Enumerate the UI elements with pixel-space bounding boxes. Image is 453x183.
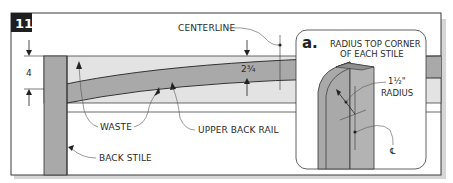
back-stile-label: BACK STILE [99,153,152,163]
upper-back-rail-label: UPPER BACK RAIL [198,125,279,135]
diagram-canvas: 11 4 2¾ CENTERLINE WASTE UPPER BACK RAIL… [0,0,453,183]
centerline-symbol: ℄ [389,146,396,156]
step-number: 11 [15,16,33,31]
radius-label: RADIUS [381,88,413,98]
dimension-height-label: 4 [26,68,32,78]
centerline-label: CENTERLINE [178,23,235,33]
waste-label: WASTE [100,122,132,132]
detail-a-title-line1: RADIUS TOP CORNER [330,39,421,49]
radius-value-label: 1½" [388,76,406,86]
dimension-rail-width-label: 2¾ [241,64,256,74]
detail-a-title-line2: OF EACH STILE [340,49,404,59]
back-stile [44,56,67,175]
detail-a-letter: a. [302,34,318,52]
